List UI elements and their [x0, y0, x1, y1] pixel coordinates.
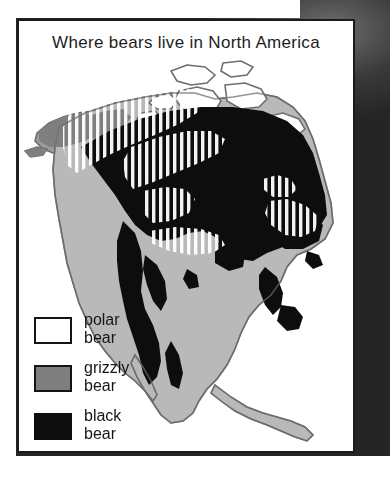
- legend-label-grizzly-bear: grizzly bear: [84, 359, 129, 395]
- figure-title: Where bears live in North America: [19, 33, 353, 53]
- legend-label-black-bear: black bear: [84, 407, 121, 443]
- legend-swatch-grizzly-bear: [34, 365, 72, 392]
- map-figure-panel: Where bears live in North America: [17, 19, 355, 453]
- page-margin-top: [0, 0, 300, 18]
- legend-swatch-black-bear: [34, 413, 72, 440]
- page-margin-left: [0, 0, 16, 480]
- legend-label-grizzly-bear-line1: grizzly: [84, 359, 129, 376]
- legend-label-polar-bear-line2: bear: [84, 329, 120, 347]
- screenshot-root: Where bears live in North America: [0, 0, 390, 480]
- legend-item-black-bear: black bear: [34, 411, 164, 453]
- legend-label-black-bear-line1: black: [84, 407, 121, 424]
- map-legend: polar bear grizzly bear black bear: [34, 315, 164, 453]
- page-margin-bottom: [0, 456, 390, 480]
- legend-item-grizzly-bear: grizzly bear: [34, 363, 164, 411]
- legend-label-black-bear-line2: bear: [84, 425, 121, 443]
- legend-label-grizzly-bear-line2: bear: [84, 377, 129, 395]
- legend-label-polar-bear: polar bear: [84, 311, 120, 347]
- legend-swatch-polar-bear: [34, 317, 72, 344]
- legend-item-polar-bear: polar bear: [34, 315, 164, 363]
- legend-label-polar-bear-line1: polar: [84, 311, 120, 328]
